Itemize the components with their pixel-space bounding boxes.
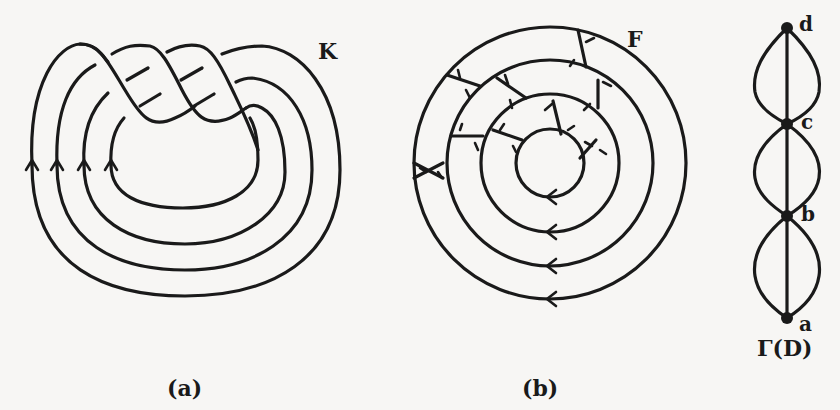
vertex-d xyxy=(781,22,793,34)
vertex-b xyxy=(781,210,793,222)
knot-diagram xyxy=(26,44,340,296)
vertex-a xyxy=(781,312,793,324)
arrow-up-icon xyxy=(26,160,117,170)
caption-gamma: Γ(D) xyxy=(757,335,813,361)
vertex-label-d: d xyxy=(799,12,813,36)
vertex-label-a: a xyxy=(799,312,812,336)
graph-gamma xyxy=(754,22,819,324)
caption-b: (b) xyxy=(522,375,558,401)
surface-label: F xyxy=(627,26,643,52)
vertex-label-b: b xyxy=(801,202,815,226)
vertex-label-c: c xyxy=(801,110,813,134)
vertex-c xyxy=(781,118,793,130)
arrow-left-icon xyxy=(547,190,556,306)
seifert-surface-diagram xyxy=(414,27,686,306)
figure-canvas xyxy=(0,0,840,410)
knot-label: K xyxy=(318,38,337,64)
caption-a: (a) xyxy=(167,375,202,401)
